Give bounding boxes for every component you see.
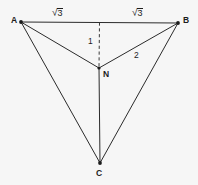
length-label-left-sqrt3: √3 xyxy=(52,8,63,18)
segment-label-altitude-1: 1 xyxy=(88,37,93,46)
point-label-n: N xyxy=(103,70,109,79)
edge-midpoint-to-n-dashed xyxy=(99,23,100,69)
figure-canvas xyxy=(0,0,198,185)
length-label-right-sqrt3: √3 xyxy=(132,8,143,18)
edge-bc xyxy=(100,23,178,163)
radical-value-left: 3 xyxy=(57,8,63,18)
radical-value-right: 3 xyxy=(137,8,143,18)
segment-label-nb-2: 2 xyxy=(134,51,139,60)
vertex-dot-n xyxy=(97,66,100,69)
geometry-figure: A B N C √3 √3 1 2 xyxy=(0,0,198,185)
edge-nb xyxy=(99,23,178,68)
vertex-dot-b xyxy=(176,21,180,25)
point-label-b: B xyxy=(183,16,189,25)
vertex-dot-c xyxy=(98,161,102,165)
edge-nc xyxy=(99,68,100,163)
vertex-dot-a xyxy=(19,20,23,24)
point-label-c: C xyxy=(96,169,102,178)
point-label-a: A xyxy=(11,16,17,25)
radical-left: √3 xyxy=(52,8,63,18)
radical-right: √3 xyxy=(132,8,143,18)
